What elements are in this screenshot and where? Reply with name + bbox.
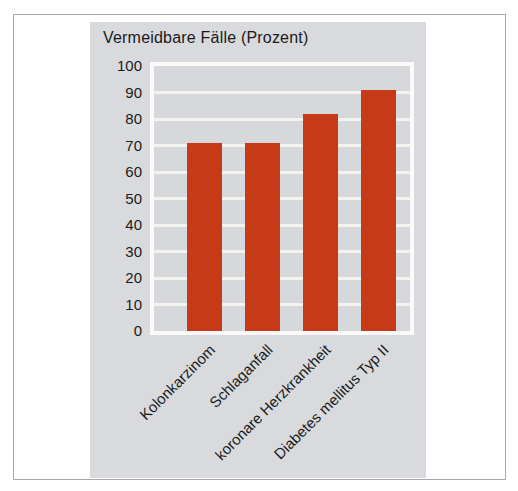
- bar-schlaganfall: [245, 143, 280, 331]
- y-tick-label-80: 80: [100, 110, 142, 128]
- bar-diabetes-mellitus-typ-ii: [361, 90, 396, 331]
- bar-koronare-herzkrankheit: [303, 114, 338, 331]
- chart-panel: Vermeidbare Fälle (Prozent) 010203040506…: [90, 22, 426, 478]
- chart-title: Vermeidbare Fälle (Prozent): [103, 29, 309, 47]
- y-tick-label-60: 60: [100, 163, 142, 181]
- y-tick-label-90: 90: [100, 84, 142, 102]
- y-tick-label-30: 30: [100, 243, 142, 261]
- y-tick-label-70: 70: [100, 137, 142, 155]
- x-category-label-kolonkarzinom: Kolonkarzinom: [136, 341, 218, 423]
- y-tick-label-0: 0: [100, 322, 142, 340]
- y-tick-label-40: 40: [100, 216, 142, 234]
- plot-area: [150, 62, 414, 335]
- y-tick-label-20: 20: [100, 269, 142, 287]
- y-tick-label-10: 10: [100, 296, 142, 314]
- y-tick-label-50: 50: [100, 190, 142, 208]
- bar-kolonkarzinom: [187, 143, 222, 331]
- y-tick-label-100: 100: [100, 57, 142, 75]
- x-category-label-diabetes-mellitus-typ-ii: Diabetes mellitus Typ II: [271, 341, 392, 462]
- x-category-label-koronare-herzkrankheit: koronare Herzkrankheit: [212, 341, 334, 463]
